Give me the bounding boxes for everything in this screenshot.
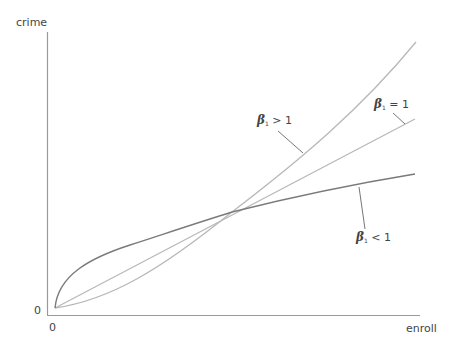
leader-beta-less-1	[359, 187, 365, 229]
label-beta-less-1: β1 < 1	[356, 230, 391, 244]
x-origin-tick: 0	[49, 321, 56, 334]
label-beta-greater-1: β1 > 1	[257, 113, 292, 127]
y-origin-tick: 0	[34, 304, 41, 317]
curve-beta-equal-1	[55, 119, 415, 308]
x-axis-label: enroll	[406, 322, 437, 335]
curve-beta-greater-1	[55, 42, 416, 308]
label-beta-equal-1: β1 = 1	[374, 97, 409, 111]
y-axis-label: crime	[16, 16, 47, 29]
leader-beta-equal-1	[393, 113, 405, 124]
chart-canvas	[0, 0, 452, 350]
leader-beta-greater-1	[278, 131, 303, 153]
